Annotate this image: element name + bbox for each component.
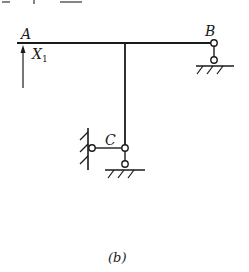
label-a: A: [19, 26, 31, 42]
support-b: [196, 40, 234, 74]
structure-diagram: A B C X 1 (b): [0, 0, 249, 272]
label-x1-subscript: 1: [42, 54, 48, 64]
cutoff-header-fragment: [2, 0, 82, 4]
label-c: C: [105, 132, 116, 148]
x1-arrow-icon: [21, 45, 26, 88]
label-b: B: [204, 23, 215, 39]
figure-caption: (b): [108, 250, 126, 265]
